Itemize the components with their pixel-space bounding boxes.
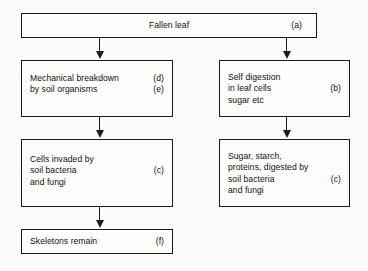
- node-fallen-leaf: Fallen leaf (a): [21, 13, 317, 38]
- node-mechanical-breakdown-line-0: Mechanical breakdown: [30, 73, 119, 83]
- node-cells-invaded: Cells invaded by soil bacteria (c) and f…: [21, 139, 173, 207]
- node-mechanical-breakdown-tag-d: (d): [153, 73, 164, 84]
- arrow-leaf-to-mechanical: [94, 38, 105, 60]
- node-sugar-starch-line-3: and fungi: [228, 185, 264, 195]
- text-line: Sugar, starch,: [228, 151, 343, 162]
- node-skeletons-remain-tag: (f): [156, 236, 164, 247]
- node-cells-invaded-tag: (c): [154, 165, 164, 176]
- text-line: in leaf cells (b): [228, 83, 343, 94]
- arrow-shaft: [99, 207, 100, 221]
- arrow-head-icon: [96, 51, 104, 59]
- node-sugar-starch-line-1: proteins, digested by: [228, 162, 308, 172]
- text-line: Mechanical breakdown (d): [30, 73, 166, 84]
- node-fallen-leaf-tag: (a): [291, 20, 302, 31]
- arrow-head-icon: [96, 220, 104, 228]
- node-cells-invaded-line-1: soil bacteria: [30, 165, 77, 175]
- arrow-head-icon: [283, 130, 291, 138]
- text-line: by soil organisms (e): [30, 84, 166, 95]
- node-skeletons-remain-text: Skeletons remain (f): [30, 236, 166, 247]
- arrow-cells-to-skeletons: [94, 207, 105, 229]
- arrow-head-icon: [283, 51, 291, 59]
- arrow-shaft: [99, 38, 100, 52]
- arrow-leaf-to-self-digestion: [281, 38, 292, 60]
- node-mechanical-breakdown-text: Mechanical breakdown (d) by soil organis…: [30, 73, 166, 96]
- node-fallen-leaf-line-0: Fallen leaf: [149, 20, 189, 30]
- text-line: Skeletons remain (f): [30, 236, 166, 247]
- arrow-shaft: [286, 117, 287, 131]
- node-sugar-starch: Sugar, starch, proteins, digested by soi…: [219, 139, 350, 207]
- text-line: Self digestion: [228, 72, 343, 83]
- flowchart-canvas: Fallen leaf (a) Mechanical breakdown (d)…: [0, 0, 368, 271]
- arrow-shaft: [286, 38, 287, 52]
- node-self-digestion-line-2: sugar etc: [228, 95, 264, 105]
- node-mechanical-breakdown-tag-e: (e): [153, 84, 164, 95]
- arrow-head-icon: [96, 130, 104, 138]
- text-line: soil bacteria (c): [30, 165, 166, 176]
- node-self-digestion-text: Self digestion in leaf cells (b) sugar e…: [228, 72, 343, 106]
- node-mechanical-breakdown-line-1: by soil organisms: [30, 84, 97, 94]
- text-line: Fallen leaf (a): [22, 20, 316, 31]
- node-cells-invaded-text: Cells invaded by soil bacteria (c) and f…: [30, 154, 166, 188]
- node-sugar-starch-line-0: Sugar, starch,: [228, 151, 282, 161]
- node-skeletons-remain-line-0: Skeletons remain: [30, 236, 97, 246]
- node-self-digestion-line-1: in leaf cells: [228, 83, 271, 93]
- node-cells-invaded-line-2: and fungi: [30, 177, 66, 187]
- node-sugar-starch-tag: (c): [331, 174, 341, 185]
- arrow-shaft: [99, 117, 100, 131]
- node-cells-invaded-line-0: Cells invaded by: [30, 154, 94, 164]
- node-mechanical-breakdown: Mechanical breakdown (d) by soil organis…: [21, 60, 173, 117]
- text-line: proteins, digested by: [228, 162, 343, 173]
- node-fallen-leaf-text: Fallen leaf (a): [22, 20, 316, 31]
- node-sugar-starch-text: Sugar, starch, proteins, digested by soi…: [228, 151, 343, 197]
- arrow-self-digestion-to-sugar: [281, 117, 292, 139]
- text-line: and fungi: [228, 185, 343, 196]
- text-line: sugar etc: [228, 95, 343, 106]
- node-self-digestion: Self digestion in leaf cells (b) sugar e…: [219, 60, 350, 117]
- node-sugar-starch-line-2: soil bacteria: [228, 174, 275, 184]
- text-line: and fungi: [30, 177, 166, 188]
- arrow-mechanical-to-cells: [94, 117, 105, 139]
- node-self-digestion-line-0: Self digestion: [228, 72, 280, 82]
- node-skeletons-remain: Skeletons remain (f): [21, 229, 173, 254]
- node-self-digestion-tag: (b): [330, 83, 341, 94]
- text-line: Cells invaded by: [30, 154, 166, 165]
- text-line: soil bacteria (c): [228, 174, 343, 185]
